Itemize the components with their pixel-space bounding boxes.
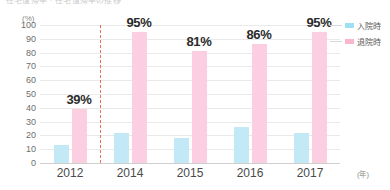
y-axis-tick-label: 0 (2, 159, 36, 168)
x-axis-tick-label: 2012 (57, 166, 84, 180)
bar-group: 81% (160, 25, 220, 163)
bar-discharge: 86% (252, 44, 267, 163)
legend-swatch (345, 23, 354, 28)
bar-admission (234, 127, 249, 163)
legend-swatch (345, 39, 354, 44)
y-axis-tick-label: 20 (2, 131, 36, 140)
chart-legend: 入院時退院時 (330, 20, 381, 47)
plot-area: 39%95%81%86%95% (40, 25, 340, 163)
x-axis-category-labels: 20122014201520162017 (40, 166, 340, 184)
legend-item: 退院時 (330, 36, 381, 47)
bar-value-label: 95% (306, 15, 331, 30)
bar-value-label: 86% (246, 27, 271, 42)
bar-discharge: 95% (312, 32, 327, 163)
bar-discharge: 95% (132, 32, 147, 163)
x-axis-tick-label: 2017 (297, 166, 324, 180)
bar-value-label: 95% (126, 15, 151, 30)
bar-admission (174, 138, 189, 163)
chart-title: 在宅復帰率・在宅復帰率の推移 (6, 0, 121, 5)
legend-label: 入院時 (357, 20, 381, 31)
y-axis-tick-label: 50 (2, 90, 36, 99)
x-axis-unit-label: (年) (357, 168, 369, 179)
x-axis-tick-label: 2016 (237, 166, 264, 180)
legend-item: 入院時 (330, 20, 381, 31)
y-axis-tick-label: 100 (2, 21, 36, 30)
bar-discharge: 81% (192, 51, 207, 163)
bar-discharge: 39% (72, 109, 87, 163)
bar-value-label: 39% (66, 92, 91, 107)
bar-groups: 39%95%81%86%95% (40, 25, 340, 163)
y-axis-tick-label: 40 (2, 103, 36, 112)
bar-admission (114, 133, 129, 163)
y-axis-tick-label: 70 (2, 62, 36, 71)
bar-value-label: 81% (186, 34, 211, 49)
y-axis-tick-labels: 1009080706050403020100 (0, 25, 36, 163)
y-axis-tick-label: 60 (2, 76, 36, 85)
bar-admission (54, 145, 69, 163)
y-axis-tick-label: 10 (2, 145, 36, 154)
legend-label: 退院時 (357, 36, 381, 47)
x-axis-tick-label: 2015 (177, 166, 204, 180)
bar-admission (294, 133, 309, 163)
y-axis-tick-label: 30 (2, 117, 36, 126)
x-axis-tick-label: 2014 (117, 166, 144, 180)
y-axis-tick-label: 90 (2, 34, 36, 43)
legend-leader-line (330, 41, 342, 42)
bar-group: 95% (100, 25, 160, 163)
bar-group: 39% (40, 25, 100, 163)
bar-chart: 在宅復帰率・在宅復帰率の推移 (%) (年) 10090807060504030… (0, 0, 390, 190)
legend-leader-line (330, 25, 342, 26)
bar-group: 86% (220, 25, 280, 163)
gridline (40, 163, 340, 164)
y-axis-tick-label: 80 (2, 48, 36, 57)
